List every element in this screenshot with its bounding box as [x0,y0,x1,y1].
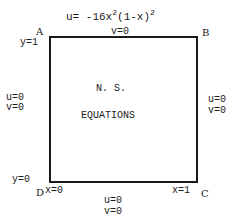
u-expression-prefix: u= -16x [66,11,112,23]
u-expression-mid: (1-x) [117,11,150,23]
right-v-condition: v=0 [208,106,226,116]
center-text-ns: N. S. [96,84,126,94]
top-u-condition: u= -16x2(1-x)2 [66,12,155,22]
center-text-equations: EQUATIONS [81,111,135,121]
x-right-label: x=1 [172,186,190,196]
left-v-condition: v=0 [6,103,24,113]
corner-label-a: A [36,27,43,37]
bottom-v-condition: v=0 [104,207,122,217]
corner-label-b: B [202,28,209,38]
y-top-label: y=1 [20,38,38,48]
y-bottom-label: y=0 [12,175,30,185]
x-left-label: x=0 [45,186,63,196]
exponent-2: 2 [150,8,155,17]
bottom-u-condition: u=0 [104,196,122,206]
corner-label-d: D [36,188,44,198]
right-u-condition: u=0 [208,95,226,105]
corner-label-c: C [201,189,209,199]
